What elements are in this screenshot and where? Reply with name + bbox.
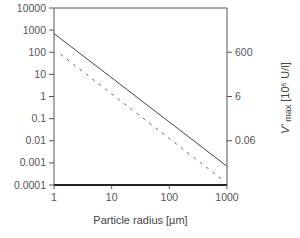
- y-tick-label: 0.001: [20, 156, 46, 168]
- x-axis-label: Particle radius [µm]: [93, 214, 187, 226]
- series-line-solid: [54, 34, 227, 167]
- series-line-dashed: [61, 54, 225, 181]
- y-tick-label: 1: [40, 90, 46, 102]
- y-right-label-sub: max: [283, 104, 293, 124]
- y-tick-label: 100: [28, 46, 46, 58]
- y-right-tick-label: 600: [235, 46, 253, 58]
- y-tick-label: 0.01: [26, 134, 47, 146]
- x-tick-label: 1000: [215, 191, 239, 203]
- y-tick-label: 10: [34, 68, 46, 80]
- y-tick-label: 0.1: [31, 112, 46, 124]
- y-right-axis-label: V′ max [10⁶ U/l]: [279, 62, 293, 133]
- x-tick-label: 100: [161, 191, 179, 203]
- x-tick-label: 10: [106, 191, 118, 203]
- y-tick-label: 0.0001: [14, 179, 46, 191]
- chart: 1000010001001010.10.010.0010.00011101001…: [0, 0, 300, 238]
- y-tick-label: 10000: [17, 2, 46, 14]
- y-right-tick-label: 6: [235, 90, 241, 102]
- y-tick-label: 1000: [23, 24, 47, 36]
- y-right-tick-label: 0.06: [235, 134, 256, 146]
- x-tick-label: 1: [51, 191, 57, 203]
- y-right-label-unit: [10⁶ U/l]: [279, 62, 291, 104]
